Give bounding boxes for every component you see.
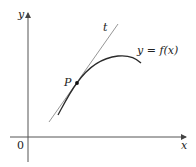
point-p-marker (75, 81, 79, 85)
tangent-diagram: y x 0 t P y = f(x) (0, 0, 196, 167)
origin-label: 0 (17, 139, 24, 152)
point-p-label: P (63, 76, 72, 89)
curve-label: y = f(x) (136, 44, 178, 57)
x-axis-label: x (181, 139, 188, 152)
y-axis-label: y (17, 8, 25, 21)
tangent-label: t (103, 21, 108, 34)
tangent-line (49, 24, 118, 122)
